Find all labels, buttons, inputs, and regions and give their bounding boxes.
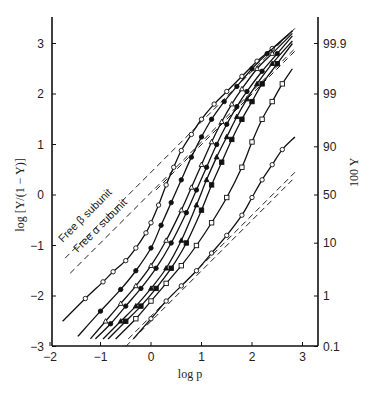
data-point-circle: [184, 210, 188, 214]
data-point-square: [220, 160, 224, 164]
x-tick-label: 0: [148, 350, 155, 364]
series-curve: [63, 31, 293, 321]
data-point-circle: [124, 304, 128, 308]
data-point-circle: [260, 178, 264, 182]
y-axis-title: log [Y/(1 − Y)]: [13, 158, 27, 231]
data-point-circle: [179, 178, 183, 182]
data-point-circle: [149, 317, 153, 321]
data-point-triangle: [214, 155, 219, 159]
data-point-circle: [235, 104, 239, 108]
data-point-circle: [212, 102, 216, 106]
data-point-triangle: [204, 177, 209, 181]
data-point-circle: [98, 309, 102, 313]
y-tick-label: 2: [37, 87, 44, 101]
data-point-square: [179, 264, 183, 268]
x-axis-title: log p: [178, 367, 202, 381]
data-point-square: [194, 243, 198, 247]
data-point-square: [124, 319, 128, 323]
data-point-circle: [124, 258, 128, 262]
y-right-tick-label: 10: [323, 236, 337, 250]
data-point-circle: [225, 122, 229, 126]
data-point-circle: [225, 89, 229, 93]
data-point-circle: [144, 231, 148, 235]
data-point-circle: [250, 195, 254, 199]
data-point-square: [275, 62, 279, 66]
data-point-triangle: [179, 238, 184, 242]
data-point-square: [154, 286, 158, 290]
data-point-circle: [172, 165, 176, 169]
data-point-circle: [83, 296, 87, 300]
data-point-square: [164, 281, 168, 285]
data-point-circle: [189, 132, 193, 136]
data-point-circle: [179, 284, 183, 288]
data-point-circle: [149, 246, 153, 250]
data-point-circle: [250, 67, 254, 71]
data-point-circle: [179, 148, 183, 152]
y-tick-label: 0: [37, 188, 44, 202]
data-point-circle: [194, 269, 198, 273]
y-right-axis-title: 100 Y: [347, 157, 361, 187]
data-point-circle: [156, 203, 160, 207]
data-point-circle: [134, 246, 138, 250]
reference-dashed-lines: [65, 28, 295, 346]
data-point-circle: [154, 266, 158, 270]
data-point-triangle: [179, 208, 184, 212]
data-point-square: [260, 117, 264, 121]
data-point-square: [240, 165, 244, 169]
data-point-circle: [119, 287, 123, 291]
series-curve: [90, 33, 292, 339]
data-point-circle: [209, 117, 213, 121]
data-point-square: [250, 140, 254, 144]
y-right-tick-label: 1: [323, 289, 330, 303]
annotations: Free β subunitFree α subunit: [56, 186, 130, 254]
y-tick-label: −3: [30, 340, 44, 354]
data-point-circle: [164, 299, 168, 303]
dashed-reference-line: [156, 51, 295, 190]
y-tick-label: −1: [30, 239, 44, 253]
data-point-circle: [222, 99, 226, 103]
data-point-circle: [159, 223, 163, 227]
data-point-square: [184, 241, 188, 245]
x-tick-label: 3: [299, 350, 306, 364]
data-series: [63, 31, 295, 339]
data-point-square: [209, 221, 213, 225]
x-tick-label: −1: [94, 350, 108, 364]
data-point-circle: [240, 213, 244, 217]
data-point-square: [250, 99, 254, 103]
data-point-circle: [214, 142, 218, 146]
data-point-triangle: [199, 162, 204, 166]
data-point-square: [139, 304, 143, 308]
x-tick-label: 1: [198, 350, 205, 364]
data-point-circle: [204, 165, 208, 169]
data-point-circle: [108, 322, 112, 326]
data-point-circle: [260, 69, 264, 73]
y-right-tick-label: 0.1: [323, 340, 340, 354]
data-point-circle: [225, 233, 229, 237]
y-right-tick-label: 99: [323, 87, 337, 101]
data-point-circle: [149, 221, 153, 225]
data-point-circle: [245, 89, 249, 93]
data-point-square: [199, 208, 203, 212]
data-point-circle: [280, 147, 284, 151]
data-point-circle: [265, 51, 269, 55]
x-tick-label: −2: [43, 350, 57, 364]
data-point-circle: [111, 270, 115, 274]
x-tick-label: 2: [249, 350, 256, 364]
data-point-square: [149, 299, 153, 303]
y-tick-label: 3: [37, 37, 44, 51]
data-point-square: [260, 82, 264, 86]
data-point-circle: [209, 251, 213, 255]
hill-plot-chart: −2−10123−3−2−101230.111050909999.9log pl…: [0, 0, 369, 396]
data-point-circle: [189, 155, 193, 159]
data-point-square: [209, 183, 213, 187]
data-point-square: [270, 99, 274, 103]
data-point-circle: [134, 269, 138, 273]
series-curve: [133, 137, 295, 339]
data-point-square: [280, 82, 284, 86]
data-point-circle: [164, 183, 168, 187]
data-point-triangle: [194, 203, 199, 207]
data-point-circle: [169, 241, 173, 245]
curve-line: [63, 31, 293, 321]
y-tick-label: −2: [30, 289, 44, 303]
data-point-square: [240, 117, 244, 121]
